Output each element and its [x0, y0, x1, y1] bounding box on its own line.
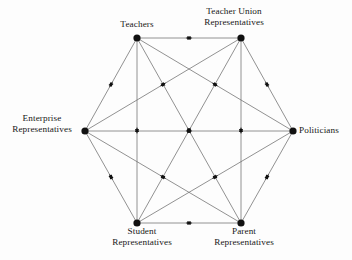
arrowheads-union-politicians [264, 82, 269, 88]
arrowheads-politicians-parent [264, 174, 269, 180]
arrowheads-teachers-student [135, 127, 139, 134]
node-label-parent-line1: Parent [196, 226, 292, 237]
arrowheads-politicians-student [212, 174, 218, 179]
node-label-politicians-line1: Politicians [299, 125, 352, 136]
arrowhead-layer [108, 36, 269, 225]
arrowheads-parent-enterprise [160, 174, 166, 179]
node-label-teachers: Teachers [107, 19, 167, 30]
node-label-teacher-union-representatives: Teacher Union Representatives [186, 6, 282, 27]
arrowheads-union-parent [239, 127, 243, 134]
node-politicians [289, 127, 296, 134]
node-teachers [133, 34, 140, 41]
arrowheads-teachers-union [186, 36, 193, 40]
arrowheads-union-enterprise [160, 82, 166, 87]
arrowheads-teachers-enterprise [108, 82, 113, 88]
node-label-politicians: Politicians [299, 125, 352, 136]
arrowheads-student-enterprise [108, 174, 113, 180]
arrowheads-parent-student [186, 221, 193, 225]
node-union [237, 34, 244, 41]
node-label-enterprise-line2: Representatives [2, 124, 82, 135]
arrowheads-teachers-politicians [212, 82, 218, 87]
node-label-union-line1: Teacher Union [186, 6, 282, 17]
node-label-enterprise-line1: Enterprise [2, 113, 82, 124]
node-label-union-line2: Representatives [186, 17, 282, 28]
node-label-enterprise-representatives: Enterprise Representatives [2, 113, 82, 134]
node-label-teachers-line1: Teachers [107, 19, 167, 30]
node-label-student-representatives: Student Representatives [97, 226, 187, 247]
node-label-student-line1: Student [97, 226, 187, 237]
diagram-canvas: Teachers Teacher Union Representatives E… [0, 0, 352, 260]
node-label-parent-representatives: Parent Representatives [196, 226, 292, 247]
node-label-parent-line2: Representatives [196, 237, 292, 248]
node-enterprise [81, 127, 88, 134]
node-label-student-line2: Representatives [97, 237, 187, 248]
